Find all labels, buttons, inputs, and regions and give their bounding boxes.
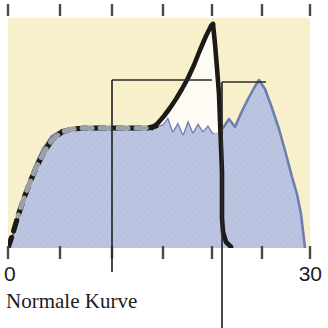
chart-figure: 0 30 Normale Kurve: [0, 0, 328, 328]
x-axis-min-label: 0: [4, 262, 16, 285]
chart-svg: 0 30 Normale Kurve: [0, 0, 328, 328]
x-axis-max-label: 30: [299, 262, 322, 285]
caption-normale-kurve: Normale Kurve: [6, 289, 137, 313]
